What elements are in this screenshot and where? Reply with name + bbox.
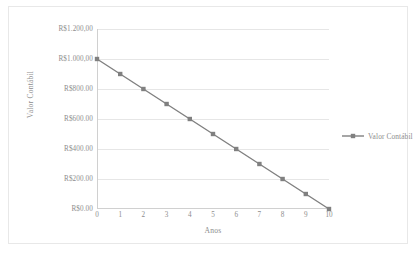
data-point-marker xyxy=(141,87,145,91)
y-tick-label: R$0.00 xyxy=(71,205,93,213)
plot-area xyxy=(97,29,329,209)
data-point-marker xyxy=(118,72,122,76)
data-point-marker xyxy=(188,117,192,121)
series-valor-contabil xyxy=(97,29,329,209)
x-tick-label: 0 xyxy=(95,211,99,219)
y-axis-tick-labels: R$0.00R$200.00R$400.00R$600.00R$800.00R$… xyxy=(29,29,93,209)
legend-line-marker-icon xyxy=(341,131,365,141)
chart-frame: Valor Contábil R$0.00R$200.00R$400.00R$6… xyxy=(8,6,408,244)
x-tick-label: 9 xyxy=(304,211,308,219)
data-point-marker xyxy=(211,132,215,136)
x-tick-label: 4 xyxy=(188,211,192,219)
legend-label-valor-contabil: Valor Contábil xyxy=(368,132,413,141)
y-tick-label: R$600.00 xyxy=(64,115,93,123)
x-tick-label: 5 xyxy=(211,211,215,219)
x-tick-label: 8 xyxy=(281,211,285,219)
data-point-marker xyxy=(234,147,238,151)
y-tick-label: R$400.00 xyxy=(64,145,93,153)
x-tick-label: 6 xyxy=(234,211,238,219)
chart-screenshot: Valor Contábil R$0.00R$200.00R$400.00R$6… xyxy=(0,0,418,257)
x-axis-title: Anos xyxy=(97,226,329,235)
x-tick-label: 3 xyxy=(165,211,169,219)
data-point-marker xyxy=(280,177,284,181)
data-point-marker xyxy=(95,57,99,61)
data-point-marker xyxy=(164,102,168,106)
x-tick-label: 1 xyxy=(118,211,122,219)
data-point-marker xyxy=(304,192,308,196)
x-axis-tick-labels: 012345678910 xyxy=(97,211,329,225)
x-tick-label: 10 xyxy=(325,211,332,219)
y-tick-label: R$800.00 xyxy=(64,85,93,93)
x-tick-label: 7 xyxy=(258,211,262,219)
chart-legend: Valor Contábil xyxy=(341,131,413,141)
y-tick-label: R$200.00 xyxy=(64,175,93,183)
data-point-marker xyxy=(257,162,261,166)
x-tick-label: 2 xyxy=(142,211,146,219)
y-tick-label: R$1.000,00 xyxy=(58,55,93,63)
y-tick-label: R$1.200,00 xyxy=(58,25,93,33)
